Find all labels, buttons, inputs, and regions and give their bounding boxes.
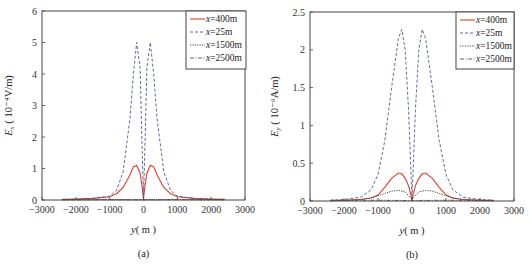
x-tick-label: 2000: [201, 204, 221, 215]
legend-entry: x=1500m: [205, 40, 243, 50]
x-tick-label: 2000: [470, 205, 490, 216]
legend-entry: x=25m: [475, 28, 503, 38]
x-tick-label: 3000: [504, 205, 524, 216]
y-tick-label: 2: [32, 132, 37, 143]
x-axis-label: y( m ): [398, 225, 425, 237]
x-tick-label: −3000: [297, 205, 323, 216]
y-tick-label: 4: [32, 69, 37, 80]
legend-entry: x=1500m: [475, 41, 513, 51]
y-axis-label: Ey ( 10⁻⁶A/m): [269, 76, 282, 138]
y-tick-label: 3: [32, 100, 37, 111]
x-tick-label: 0: [410, 205, 415, 216]
legend: x=400mx=25mx=1500mx=2500m: [186, 11, 246, 69]
y-tick-label: 5: [32, 37, 37, 48]
x-tick-label: −2000: [63, 204, 89, 215]
y-tick-label: 0.5: [293, 158, 306, 169]
legend-entry: x=2500m: [205, 53, 243, 63]
x-tick-label: 1000: [167, 204, 187, 215]
legend-entry: x=400m: [475, 15, 508, 25]
y-tick-label: 1: [300, 120, 305, 131]
x-tick-label: −2000: [331, 205, 357, 216]
panel-caption: (b): [406, 249, 419, 261]
chart-b-svg: −3000−2000−1000010002000300000.511.522.5…: [265, 0, 530, 271]
x-tick-label: 0: [141, 204, 146, 215]
x-tick-label: −1000: [365, 205, 391, 216]
legend: x=400mx=25mx=1500mx=2500m: [456, 12, 514, 69]
y-tick-label: 1.5: [293, 82, 306, 93]
chart-a-svg: −3000−2000−100001000200030000123456y( m …: [0, 0, 265, 271]
y-tick-label: 2.5: [293, 7, 306, 18]
x-tick-label: 1000: [436, 205, 456, 216]
x-axis-label: y( m ): [130, 224, 157, 236]
x-tick-label: 3000: [235, 204, 255, 215]
y-tick-label: 2: [300, 44, 305, 55]
y-tick-label: 0: [32, 195, 37, 206]
legend-entry: x=400m: [205, 14, 238, 24]
legend-entry: x=2500m: [475, 54, 513, 64]
y-tick-label: 6: [32, 6, 37, 17]
chart-panel-a: −3000−2000−100001000200030000123456y( m …: [0, 0, 265, 271]
x-tick-label: −1000: [97, 204, 123, 215]
y-tick-label: 0: [300, 196, 305, 207]
x-tick-label: −3000: [29, 204, 55, 215]
chart-panel-b: −3000−2000−1000010002000300000.511.522.5…: [265, 0, 530, 271]
panel-caption: (a): [138, 248, 150, 260]
legend-entry: x=25m: [205, 27, 233, 37]
y-tick-label: 1: [32, 163, 37, 174]
y-axis-label: Ex ( 10⁻⁴V/m): [3, 75, 16, 137]
